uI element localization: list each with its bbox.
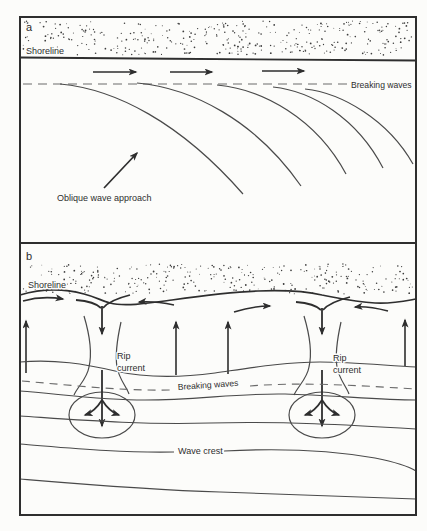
sand-dot <box>305 50 307 52</box>
sand-dot <box>337 41 339 43</box>
sand-dot <box>64 266 65 267</box>
sand-dot <box>94 43 96 45</box>
sand-stipple-b <box>23 263 413 294</box>
sand-dot <box>339 30 340 31</box>
sand-dot <box>317 41 318 42</box>
sand-dot <box>206 290 207 291</box>
sand-dot <box>378 289 380 291</box>
sand-dot <box>28 40 29 41</box>
sand-dot <box>319 29 320 30</box>
feeder-arrow-right <box>234 306 270 312</box>
sand-dot <box>209 26 210 27</box>
sand-dot <box>231 282 233 284</box>
sand-dot <box>50 37 52 39</box>
sand-dot <box>243 23 244 24</box>
sand-dot <box>343 293 344 294</box>
sand-dot <box>364 51 365 52</box>
wave-crest-curve <box>305 89 413 164</box>
sand-dot <box>336 274 337 275</box>
sand-dot <box>346 22 347 23</box>
sand-dot <box>60 32 62 34</box>
sand-dot <box>367 290 368 291</box>
sand-dot <box>372 23 373 24</box>
sand-dot <box>93 272 94 273</box>
sand-dot <box>259 46 260 47</box>
sand-dot <box>187 45 188 46</box>
sand-dot <box>355 36 357 38</box>
sand-dot <box>390 52 391 53</box>
sand-dot <box>386 39 388 41</box>
sand-dot <box>331 276 333 278</box>
sand-dot <box>343 23 345 25</box>
sand-dot <box>69 293 70 294</box>
sand-dot <box>337 290 339 292</box>
sand-dot <box>104 277 105 278</box>
sand-dot <box>404 22 406 24</box>
sand-dot <box>345 42 347 44</box>
sand-dot <box>224 278 226 280</box>
sand-dot <box>347 278 349 280</box>
panel-b-tag: b <box>26 250 32 262</box>
sand-dot <box>283 283 284 284</box>
sand-dot <box>131 266 132 267</box>
sand-dot <box>159 264 160 265</box>
sand-dot <box>279 274 280 275</box>
sand-dot <box>173 267 175 269</box>
sand-dot <box>270 52 272 54</box>
sand-dot <box>138 285 139 286</box>
sand-dot <box>223 265 225 267</box>
sand-dot <box>200 265 201 266</box>
sand-dot <box>69 39 70 40</box>
sand-dot <box>381 26 382 27</box>
sand-dot <box>343 266 344 267</box>
sand-dot <box>80 274 81 275</box>
sand-dot <box>208 268 209 269</box>
sand-dot <box>71 39 72 40</box>
sand-dot <box>407 22 409 24</box>
shoreline-line-b <box>20 290 416 305</box>
sand-dot <box>295 43 296 44</box>
sand-dot <box>324 31 326 33</box>
sand-dot <box>141 279 142 280</box>
sand-dot <box>311 47 312 48</box>
sand-dot <box>153 51 155 53</box>
sand-dot <box>69 277 70 278</box>
sand-dot <box>291 285 292 286</box>
sand-dot <box>285 48 287 50</box>
sand-dot <box>166 289 167 290</box>
sand-dot <box>189 31 190 32</box>
sand-dot <box>408 292 410 294</box>
sand-dot <box>136 291 137 292</box>
rip-current-label-1: Rip current <box>117 351 146 373</box>
sand-dot <box>230 287 231 288</box>
sand-dot <box>306 270 307 271</box>
sand-dot <box>41 275 42 276</box>
sand-dot <box>376 283 378 285</box>
sand-dot <box>166 277 168 279</box>
sand-dot <box>125 47 127 49</box>
sand-dot <box>147 37 148 38</box>
sand-dot <box>248 29 249 30</box>
sand-dot <box>234 32 235 33</box>
sand-dot <box>157 46 159 48</box>
sand-dot <box>228 42 230 44</box>
sand-dot <box>379 29 380 30</box>
sand-dot <box>204 290 205 291</box>
coastal-currents-figure: a Shoreline Breaking waves Oblique wave … <box>0 0 427 531</box>
sand-dot <box>121 33 122 34</box>
sand-dot <box>245 36 246 37</box>
sand-dot <box>213 266 215 268</box>
sand-dot <box>237 53 239 55</box>
sand-dot <box>86 286 88 288</box>
rip-current-label-line1: Rip <box>117 351 131 361</box>
rip-current-label-2: Rip current <box>333 353 362 375</box>
sand-dot <box>273 288 275 290</box>
sand-dot <box>254 53 256 55</box>
sand-dot <box>254 285 255 286</box>
sand-dot <box>187 283 189 285</box>
sand-dot <box>73 270 75 272</box>
sand-dot <box>314 279 315 280</box>
sand-dot <box>66 23 67 24</box>
sand-dot <box>260 33 262 35</box>
sand-dot <box>216 34 217 35</box>
